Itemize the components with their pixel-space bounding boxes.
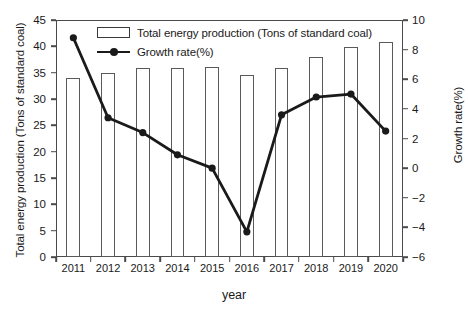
growth-rate-data-point (313, 93, 320, 100)
y-axis-left-tick-label: 30 (26, 93, 46, 105)
growth-rate-data-point (209, 165, 216, 172)
growth-rate-data-point (278, 111, 285, 118)
y-axis-right-tick-label: 6 (412, 73, 436, 85)
y-axis-left-tick-label: 5 (26, 225, 46, 237)
y-axis-right-tick-mark (403, 167, 408, 169)
y-axis-right-tick-mark (403, 108, 408, 110)
y-axis-left-tick-label: 0 (26, 251, 46, 263)
y-axis-right-tick-label: −6 (412, 251, 436, 263)
y-axis-right-tick-label: 0 (412, 162, 436, 174)
bar-swatch-icon (97, 27, 130, 38)
y-axis-right-tick-mark (403, 197, 408, 199)
y-axis-right-tick-mark (403, 227, 408, 229)
y-axis-left-tick-label: 35 (26, 67, 46, 79)
x-axis-tick-label: 2020 (366, 262, 406, 274)
y-axis-left-tick-label: 45 (26, 14, 46, 26)
y-axis-left-tick-label: 40 (26, 40, 46, 52)
growth-rate-data-point (347, 90, 354, 97)
y-axis-right-tick-label: −2 (412, 192, 436, 204)
y-axis-right-tick-mark (403, 19, 408, 21)
growth-rate-data-point (139, 129, 146, 136)
y-axis-right-tick-mark (403, 78, 408, 80)
legend-label-line: Growth rate(%) (137, 46, 214, 58)
growth-rate-data-point (382, 127, 389, 134)
y-axis-right-tick-mark (403, 138, 408, 140)
y-axis-left-tick-label: 25 (26, 119, 46, 131)
legend-item-total-energy-production: Total energy production (Tons of standar… (97, 24, 372, 41)
y-axis-right-title: Growth rate(%) (452, 0, 464, 250)
growth-rate-polyline (73, 38, 385, 232)
growth-rate-data-point (70, 34, 77, 41)
y-axis-right-tick-label: −4 (412, 221, 436, 233)
x-axis-title: year (0, 288, 468, 302)
y-axis-left-tick-label: 10 (26, 198, 46, 210)
line-marker-swatch-icon (97, 46, 130, 57)
legend-item-growth-rate: Growth rate(%) (97, 43, 372, 60)
growth-rate-data-point (174, 151, 181, 158)
y-axis-right-tick-label: 4 (412, 103, 436, 115)
y-axis-left-title: Total energy production (Tons of standar… (14, 15, 26, 265)
growth-rate-data-point (104, 114, 111, 121)
chart-legend: Total energy production (Tons of standar… (97, 24, 372, 60)
legend-label-bar: Total energy production (Tons of standar… (137, 27, 372, 39)
y-axis-left-tick-label: 15 (26, 172, 46, 184)
y-axis-right-tick-label: 2 (412, 133, 436, 145)
y-axis-right-tick-label: 8 (412, 44, 436, 56)
growth-rate-data-point (243, 228, 250, 235)
y-axis-right-tick-label: 10 (412, 14, 436, 26)
energy-production-growth-chart: Total energy production (Tons of standar… (0, 0, 468, 310)
y-axis-left-tick-label: 20 (26, 146, 46, 158)
y-axis-right-tick-mark (403, 49, 408, 51)
